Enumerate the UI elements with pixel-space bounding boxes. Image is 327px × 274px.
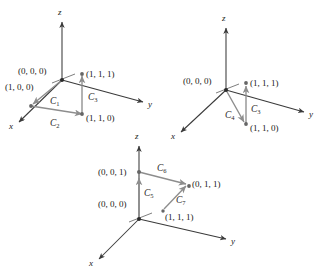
diagram-2-label-point-110: (1, 1, 0) xyxy=(250,123,279,133)
diagram-3-label-point-111: (1, 1, 1) xyxy=(165,212,194,222)
diagram-3-label-point-001: (0, 0, 1) xyxy=(98,167,127,177)
diagram-1-label-point-100: (1, 0, 0) xyxy=(5,82,34,92)
diagram-1-y-label: y xyxy=(147,99,152,109)
diagram-2-vertex-origin xyxy=(224,88,228,92)
diagram-3-y-label: y xyxy=(230,236,235,246)
diagram-1-label-origin: (0, 0, 0) xyxy=(18,66,47,76)
diagram-3-vertex-origin xyxy=(137,217,141,221)
diagram-3-z-label: z xyxy=(134,131,139,141)
diagram-2-label-point-111: (1, 1, 1) xyxy=(250,78,279,88)
figure-canvas: (0, 0, 0) (1, 0, 0) (1, 1, 1) (1, 1, 0) … xyxy=(0,0,327,274)
diagram-1-origin-tick-a xyxy=(52,74,75,83)
diagram-1: (0, 0, 0) (1, 0, 0) (1, 1, 1) (1, 1, 0) … xyxy=(5,7,152,131)
diagram-2-y-axis xyxy=(226,90,304,112)
diagram-3-x-label: x xyxy=(88,258,93,268)
diagram-1-curve-label-c3: C3 xyxy=(88,92,98,103)
diagram-3-curve-label-c6: C6 xyxy=(157,163,167,174)
diagram-2-x-label: x xyxy=(170,131,175,141)
diagram-1-curve-label-c1: C1 xyxy=(50,96,60,107)
diagram-2-z-label: z xyxy=(221,13,226,23)
diagram-1-y-axis xyxy=(62,80,143,102)
diagram-3-curve-label-c7: C7 xyxy=(176,195,186,206)
diagram-2-label-origin: (0, 0, 0) xyxy=(183,76,212,86)
diagram-1-vertex-110 xyxy=(80,112,84,116)
diagram-3-curve-label-c5: C5 xyxy=(144,188,154,199)
diagram-2-vertex-111 xyxy=(244,81,248,85)
diagram-1-curve-label-c2: C2 xyxy=(50,118,60,129)
diagram-3-origin-tick-a xyxy=(129,213,152,222)
diagram-1-label-point-111: (1, 1, 1) xyxy=(86,69,115,79)
diagram-3-x-axis xyxy=(99,219,139,259)
diagram-3-label-origin: (0, 0, 0) xyxy=(98,199,127,209)
diagram-3-label-point-011: (0, 1, 1) xyxy=(192,179,221,189)
diagram-1-vertex-100 xyxy=(29,104,33,108)
diagram-3-vertex-001 xyxy=(137,170,141,174)
diagram-2-x-axis xyxy=(181,90,226,132)
diagram-3-y-axis xyxy=(139,219,226,239)
diagram-1-label-point-110: (1, 1, 0) xyxy=(86,113,115,123)
diagram-3: (0, 0, 1) (0, 0, 0) (0, 1, 1) (1, 1, 1) … xyxy=(88,131,235,268)
diagram-1-x-label: x xyxy=(8,121,13,131)
diagram-2: (0, 0, 0) (1, 1, 1) (1, 1, 0) z y x C4 C… xyxy=(170,13,313,141)
diagram-3-vertex-011 xyxy=(187,184,191,188)
diagram-2-y-label: y xyxy=(308,109,313,119)
diagram-1-z-label: z xyxy=(57,7,62,17)
diagram-2-curve-label-c4: C4 xyxy=(225,110,235,121)
diagram-1-vertex-origin xyxy=(60,78,64,82)
diagram-2-curve-label-c3: C3 xyxy=(251,104,261,115)
diagram-1-vertex-111 xyxy=(80,72,84,76)
diagram-2-vertex-110 xyxy=(244,122,248,126)
